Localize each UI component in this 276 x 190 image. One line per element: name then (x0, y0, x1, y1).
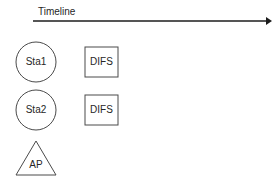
diagram-canvas: Timeline Sta1 Sta2 AP DIFS DIFS (0, 0, 276, 190)
timeline-axis-group (33, 17, 272, 25)
node-sta2-label: Sta2 (26, 104, 47, 115)
frame-difs-sta1: DIFS (85, 47, 118, 77)
difs-label: DIFS (90, 56, 113, 67)
node-sta1-label: Sta1 (26, 56, 47, 67)
difs-label: DIFS (90, 104, 113, 115)
frame-difs-sta2: DIFS (85, 95, 118, 125)
node-sta1: Sta1 (16, 42, 56, 82)
timeline-label: Timeline (38, 6, 76, 17)
node-ap: AP (16, 141, 56, 175)
node-ap-label: AP (29, 159, 43, 170)
timeline-diagram: Timeline Sta1 Sta2 AP DIFS DIFS (0, 0, 276, 190)
timeline-arrowhead-icon (266, 17, 272, 25)
node-sta2: Sta2 (16, 90, 56, 130)
